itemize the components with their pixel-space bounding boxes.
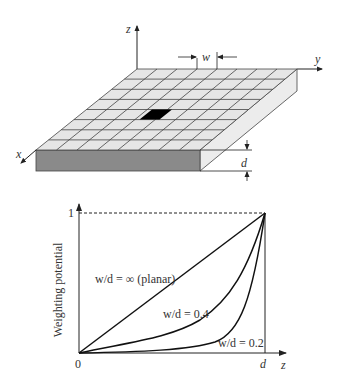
pixel-width-label: w [202,50,210,64]
figure-canvas: z y x [0,0,339,384]
thickness-label: d [241,156,248,170]
x-tick-origin: 0 [75,357,81,371]
x-tick-d: d [260,357,267,371]
label-planar: w/d = ∞ (planar) [95,272,175,286]
weighting-potential-chart: 1 0 d z Weighting potential w/d = ∞ (pla… [51,204,286,372]
label-w02: w/d = 0.2 [218,336,264,350]
y-tick-one: 1 [68,206,74,220]
label-w04: w/d = 0.4 [163,307,209,321]
z-axis-label: z [125,22,131,36]
chart-x-axis-label: z [280,358,286,372]
x-axis [21,150,36,163]
slab-front-face [36,150,200,171]
y-axis-label: y [314,52,321,66]
x-axis-label: x [15,147,22,161]
chart-y-axis-label: Weighting potential [51,242,65,337]
detector-slab-diagram: z y x [15,22,322,181]
